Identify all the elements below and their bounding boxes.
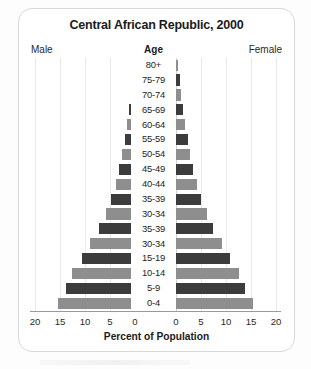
female-bar <box>176 60 178 71</box>
x-axis-title: Percent of Population <box>18 331 295 342</box>
age-group-label-text: 35-39 <box>131 222 176 237</box>
female-bar <box>176 253 230 264</box>
female-bar <box>176 194 201 205</box>
x-tick-label: 20 <box>264 316 288 327</box>
age-group-label-text: 30-34 <box>131 207 176 222</box>
male-bar <box>90 238 135 249</box>
x-tick-label: 5 <box>189 316 213 327</box>
female-bar <box>176 298 253 309</box>
x-tick-label: 0 <box>164 316 188 327</box>
female-bar <box>176 104 183 115</box>
pyramid-row: 15-19 <box>0 251 311 266</box>
age-group-label: 0-4 <box>131 296 176 311</box>
female-bar <box>176 238 222 249</box>
age-group-label-text: 65-69 <box>131 103 176 118</box>
age-group-label: 35-39 <box>131 192 176 207</box>
age-group-label: 75-79 <box>131 73 176 88</box>
female-bar <box>176 268 239 279</box>
age-group-label: 30-34 <box>131 207 176 222</box>
age-group-label-text: 60-64 <box>131 118 176 133</box>
female-bar <box>176 164 193 175</box>
age-group-label-text: 10-14 <box>131 266 176 281</box>
age-group-label-text: 75-79 <box>131 73 176 88</box>
x-tick-label: 0 <box>123 316 147 327</box>
age-group-label-text: 0-4 <box>131 296 176 311</box>
female-bar <box>176 89 181 100</box>
age-group-label-text: 35-39 <box>131 192 176 207</box>
x-tick-label: 15 <box>48 316 72 327</box>
age-group-label: 5-9 <box>131 281 176 296</box>
male-bar <box>72 268 135 279</box>
age-group-label: 55-59 <box>131 132 176 147</box>
age-group-label-text: 15-19 <box>131 251 176 266</box>
age-group-label-text: 30-34 <box>131 237 176 252</box>
pyramid-row: 75-79 <box>0 73 311 88</box>
baseline <box>30 311 281 312</box>
age-group-label-text: 40-44 <box>131 177 176 192</box>
age-group-label: 30-34 <box>131 237 176 252</box>
age-group-label-text: 5-9 <box>131 281 176 296</box>
pyramid-row: 40-44 <box>0 177 311 192</box>
pyramid-row: 0-4 <box>0 296 311 311</box>
pyramid-row: 70-74 <box>0 88 311 103</box>
age-group-label: 10-14 <box>131 266 176 281</box>
age-group-label: 35-39 <box>131 222 176 237</box>
female-bar <box>176 283 245 294</box>
male-bar <box>66 283 136 294</box>
scan-artifact <box>40 360 190 365</box>
pyramid-row: 35-39 <box>0 192 311 207</box>
male-bar <box>58 298 136 309</box>
pyramid-row: 30-34 <box>0 237 311 252</box>
age-group-label-text: 70-74 <box>131 88 176 103</box>
pyramid-row: 65-69 <box>0 103 311 118</box>
age-group-label-text: 80+ <box>131 58 176 73</box>
female-bar <box>176 208 207 219</box>
x-tick-label: 10 <box>214 316 238 327</box>
female-bar <box>176 223 213 234</box>
age-group-label: 15-19 <box>131 251 176 266</box>
age-group-label: 65-69 <box>131 103 176 118</box>
female-bar <box>176 119 185 130</box>
age-group-label: 70-74 <box>131 88 176 103</box>
age-group-label: 80+ <box>131 58 176 73</box>
age-group-label-text: 45-49 <box>131 162 176 177</box>
pyramid-row: 5-9 <box>0 281 311 296</box>
pyramid-row: 55-59 <box>0 132 311 147</box>
x-tick-label: 20 <box>23 316 47 327</box>
plot-area: 201510500510152080+75-7970-7465-6960-645… <box>0 0 311 369</box>
male-bar <box>99 223 136 234</box>
female-bar <box>176 149 190 160</box>
pyramid-row: 35-39 <box>0 222 311 237</box>
age-group-label: 40-44 <box>131 177 176 192</box>
pyramid-row: 30-34 <box>0 207 311 222</box>
x-tick-label: 15 <box>239 316 263 327</box>
pyramid-row: 60-64 <box>0 118 311 133</box>
age-group-label-text: 55-59 <box>131 132 176 147</box>
x-tick-label: 10 <box>73 316 97 327</box>
pyramid-row: 10-14 <box>0 266 311 281</box>
population-pyramid-figure: Central African Republic, 2000 Male Age … <box>0 0 311 369</box>
pyramid-row: 80+ <box>0 58 311 73</box>
female-bar <box>176 74 180 85</box>
female-bar <box>176 179 197 190</box>
age-group-label: 60-64 <box>131 118 176 133</box>
male-bar <box>82 253 135 264</box>
pyramid-row: 50-54 <box>0 147 311 162</box>
female-bar <box>176 134 188 145</box>
age-group-label: 45-49 <box>131 162 176 177</box>
pyramid-row: 45-49 <box>0 162 311 177</box>
age-group-label-text: 50-54 <box>131 147 176 162</box>
x-tick-label: 5 <box>98 316 122 327</box>
age-group-label: 50-54 <box>131 147 176 162</box>
